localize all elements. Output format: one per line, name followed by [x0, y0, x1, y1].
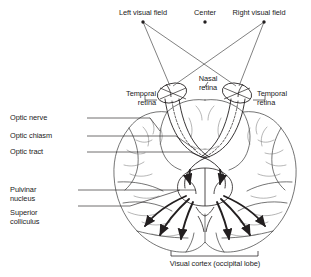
leader-optic-chiasm [87, 136, 196, 150]
right-field-dot [262, 20, 265, 23]
leader-superior-colliculus [78, 190, 180, 206]
label-optic-tract: Optic tract [10, 147, 43, 156]
label-visual-cortex: Visual cortex (occipital lobe) [134, 259, 296, 268]
optic-pathway-dashed-group [172, 101, 238, 157]
label-optic-chiasm: Optic chiasm [10, 131, 52, 140]
arrow-sc-right [220, 170, 221, 184]
field-dots-group [141, 20, 265, 23]
label-pulvinar-nucleus: Pulvinar nucleus [10, 185, 36, 203]
leader-optic-nerve [87, 118, 160, 131]
left-field-dot [141, 20, 144, 23]
label-optic-nerve: Optic nerve [10, 113, 47, 122]
label-temporal-retina-right: Temporal retina [257, 89, 311, 107]
label-nasal-retina: Nasal retina [187, 74, 229, 92]
arrow-sc-left [189, 170, 190, 184]
label-right-visual-field: Right visual field [207, 8, 311, 17]
figure-canvas: Left visual field Center Right visual fi… [0, 0, 311, 277]
center-dot [203, 20, 206, 23]
label-temporal-retina-left: Temporal retina [100, 89, 156, 107]
leader-optic-tract [87, 152, 204, 158]
label-superior-colliculus: Superior colliculus [10, 208, 40, 226]
